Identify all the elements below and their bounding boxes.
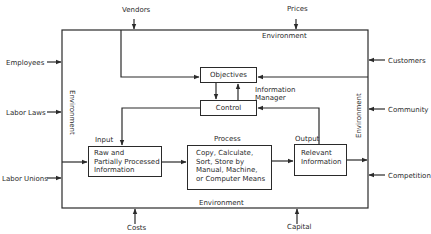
information-manager-label-line1: Information [255,86,296,94]
output-caption: Output [295,135,319,143]
objectives-box: Objectives [200,67,257,83]
input-box: Raw and Partially Processed Information [88,146,162,177]
output-box: Relevant Information [294,144,347,176]
output-line-1: Relevant [301,149,346,158]
output-line-2: Information [301,158,346,167]
objectives-label: Objectives [201,68,256,82]
input-line-3: Information [94,166,161,175]
environment-label-bottom: Environment [199,199,244,207]
process-caption: Process [214,135,241,143]
control-to-input [122,108,200,145]
input-line-2: Partially Processed [94,158,161,167]
label-employees: Employees [6,59,44,67]
label-capital: Capital [287,223,312,231]
label-prices: Prices [287,5,308,13]
process-line-3: Manual, Machine, [196,166,271,175]
process-line-2: Sort, Store by [196,158,271,167]
information-manager-label-line2: Manager [255,94,286,102]
label-vendors: Vendors [122,6,150,14]
control-box: Control [200,100,257,116]
label-competition: Competition [388,172,431,180]
label-costs: Costs [127,224,146,232]
environment-label-top: Environment [262,32,307,40]
process-line-1: Copy, Calculate, [196,149,271,158]
label-community: Community [388,106,429,114]
label-labor-unions: Labor Unions [2,175,48,183]
process-box: Copy, Calculate, Sort, Store by Manual, … [187,145,272,190]
label-labor-laws: Labor Laws [6,109,46,117]
process-line-4: or Computer Means [196,175,271,184]
environment-label-right: Environment [355,93,363,138]
label-customers: Customers [388,57,426,65]
environment-to-objectives-left [121,30,199,77]
input-caption: Input [95,136,113,144]
control-label: Control [201,101,256,115]
input-line-1: Raw and [94,149,161,158]
environment-label-left: Environment [68,90,76,135]
